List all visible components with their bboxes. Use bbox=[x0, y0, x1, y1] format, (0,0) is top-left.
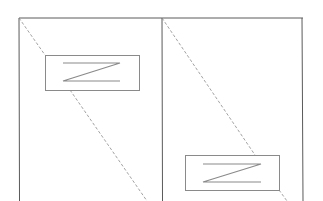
dashed-diagonal-line bbox=[162, 18, 255, 155]
right-panel bbox=[162, 18, 287, 201]
dashed-diagonal-line bbox=[19, 18, 45, 55]
frame-right-edge bbox=[302, 18, 303, 201]
dashed-diagonal-line bbox=[279, 190, 287, 201]
panel-divider bbox=[162, 18, 163, 201]
label-box bbox=[46, 56, 140, 91]
dashed-diagonal-line bbox=[70, 90, 147, 201]
diagram-canvas bbox=[0, 0, 323, 201]
frame-left-edge bbox=[19, 18, 20, 201]
left-panel bbox=[19, 18, 147, 201]
